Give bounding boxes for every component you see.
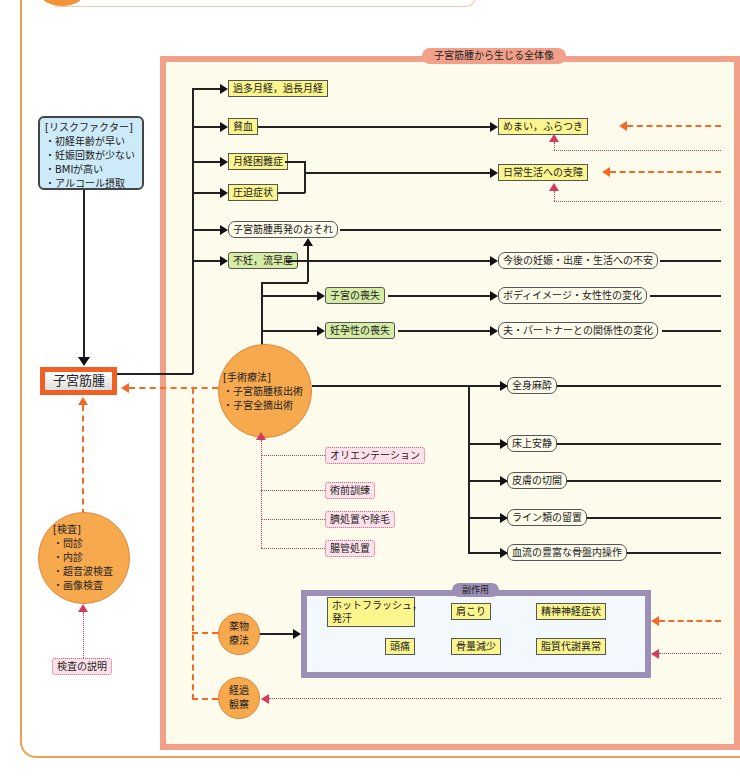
arrow-up-icon	[303, 238, 313, 246]
exam-node: [検査] ・問診 ・内診 ・超音波検査 ・画像検査	[38, 512, 130, 604]
arrow-right-icon	[490, 168, 498, 178]
connector	[261, 455, 325, 456]
connector	[627, 125, 721, 127]
loss-uterus: 子宮の喪失	[325, 287, 385, 304]
effect-lines: ライン類の留置	[507, 509, 587, 526]
exam-explanation: 検査の説明	[52, 658, 112, 675]
connector	[192, 161, 220, 163]
trunk-line	[192, 88, 194, 374]
effect-body-image: ボディイメージ・女性性の変化	[498, 287, 647, 304]
connector	[398, 330, 490, 332]
arrow-right-icon	[220, 256, 228, 266]
connector	[261, 295, 317, 297]
arrow-right-icon	[490, 326, 498, 336]
arrow-up-icon	[78, 604, 88, 612]
connector	[192, 260, 220, 262]
connector	[261, 548, 325, 549]
connector	[83, 190, 85, 358]
connector	[278, 192, 305, 194]
effect-anesthesia: 全身麻酔	[507, 377, 557, 394]
side-effect-stiff-shoulder: 肩こり	[451, 603, 491, 620]
arrow-left-icon	[602, 167, 610, 177]
arrow-left-icon	[619, 121, 627, 131]
arrow-right-icon	[220, 157, 228, 167]
surgery-item: ・子宮全摘出術	[223, 399, 311, 413]
effect-pelvic: 血流の豊富な骨盤内操作	[507, 544, 627, 561]
connector	[650, 295, 721, 297]
connector	[192, 698, 218, 700]
header-bar	[55, 0, 476, 7]
effect-partner: 夫・パートナーとの関係性の変化	[498, 322, 658, 339]
arrow-right-icon	[490, 256, 498, 266]
drug-label: 療法	[219, 634, 259, 648]
risk-title: [リスクファクター]	[45, 121, 137, 135]
connector	[192, 88, 220, 90]
connector	[262, 282, 308, 284]
arrow-right-icon	[220, 84, 228, 94]
connector	[260, 633, 293, 635]
connector	[82, 405, 84, 515]
arrow-right-icon	[490, 291, 498, 301]
symptom-anemia: 貧血	[228, 118, 258, 135]
exam-item: ・内診	[53, 551, 129, 565]
arrow-right-icon	[490, 122, 498, 132]
arrow-up-icon	[78, 397, 88, 405]
side-effect-hotflash: ホットフラッシュ， 発汗	[327, 597, 415, 627]
connector	[660, 260, 721, 262]
observation-node: 経過 観察	[218, 677, 260, 719]
panel-title: 子宮筋腫から生じる全体像	[422, 48, 566, 64]
symptom-menorrhagia: 過多月経，過長月経	[228, 80, 328, 97]
connector	[554, 150, 721, 151]
exam-item: ・問診	[53, 537, 129, 551]
connector	[261, 330, 317, 332]
connector	[261, 519, 325, 520]
preop-orientation: オリエンテーション	[325, 447, 425, 464]
connector	[388, 295, 490, 297]
connector	[304, 161, 306, 193]
connector	[468, 385, 470, 552]
observe-label: 観察	[219, 698, 259, 712]
connector	[192, 192, 220, 194]
arrow-up-icon	[549, 134, 559, 142]
exam-title: [検査]	[53, 523, 129, 537]
arrow-left-icon	[261, 694, 269, 704]
connector	[610, 171, 721, 173]
exam-item: ・画像検査	[53, 579, 129, 593]
connector	[192, 632, 218, 634]
connector	[261, 490, 325, 491]
connector	[659, 653, 721, 654]
connector	[554, 142, 555, 150]
arrow-right-icon	[220, 122, 228, 132]
surgery-node: [手術療法] ・子宮筋腫核出術 ・子宮全摘出術	[218, 344, 312, 438]
drug-therapy-node: 薬物 療法	[218, 613, 260, 655]
side-effect-bone-loss: 骨量減少	[451, 638, 501, 655]
connector	[554, 201, 721, 202]
preop-bowel: 腸管処置	[325, 540, 375, 557]
connector	[117, 373, 193, 375]
side-effects-title: 副作用	[452, 583, 499, 597]
arrow-right-icon	[317, 291, 325, 301]
risk-item: ・BMIが高い	[45, 163, 137, 177]
surgery-item: ・子宮筋腫核出術	[223, 385, 311, 399]
connector	[129, 387, 218, 389]
loss-fertility: 妊孕性の喪失	[325, 322, 395, 339]
arrow-up-icon	[549, 183, 559, 191]
symptom-recurrence: 子宮筋腫再発のおそれ	[228, 221, 338, 238]
risk-item: ・アルコール摂取	[45, 177, 137, 191]
preop-training: 術前訓練	[325, 482, 375, 499]
connector	[192, 388, 194, 700]
side-effect-lipid: 脂質代謝異常	[536, 638, 606, 655]
symptom-dysmenorrhea: 月経困難症	[228, 153, 288, 170]
connector	[662, 330, 721, 332]
preop-shaving: 臍処置や除毛	[325, 511, 395, 528]
connector	[269, 698, 721, 699]
side-effect-psych: 精神神経症状	[536, 603, 606, 620]
connector	[659, 620, 721, 622]
connector	[192, 126, 220, 128]
symptom-compression: 圧迫症状	[228, 184, 278, 201]
main-label: 子宮筋腫	[53, 373, 105, 388]
arrow-right-icon	[220, 188, 228, 198]
connector	[286, 260, 490, 262]
arrow-down-icon	[78, 357, 90, 366]
side-effect-text: ホットフラッシュ，	[332, 599, 410, 612]
